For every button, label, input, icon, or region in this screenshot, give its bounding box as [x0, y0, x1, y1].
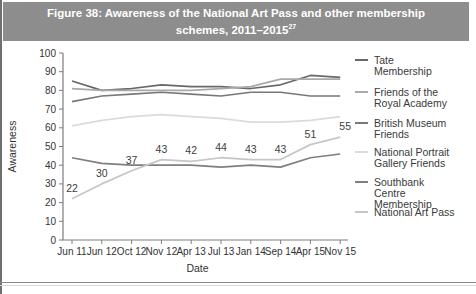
y-tick-label: 40	[45, 160, 57, 171]
data-label: 43	[245, 143, 257, 155]
y-axis-title: Awareness	[6, 121, 18, 173]
footnote-reference: 27	[288, 23, 296, 30]
x-tick-label: Nov 12	[146, 246, 178, 257]
series-line-tate-membership	[72, 75, 340, 90]
figure-title-line1: Figure 38: Awareness of the National Art…	[3, 6, 469, 21]
y-tick-label: 60	[45, 122, 57, 133]
x-tick-label: Sep 14	[265, 246, 297, 257]
figure-title-line2: schemes, 2011–201527	[3, 20, 469, 37]
data-label: 37	[126, 154, 138, 166]
figure-bottom-rule	[0, 282, 476, 286]
x-tick-label: Nov 15	[324, 246, 356, 257]
y-tick-label: 0	[50, 235, 56, 246]
data-label: 22	[66, 182, 78, 194]
figure-38-chart-panel: Figure 38: Awareness of the National Art…	[0, 0, 476, 294]
x-tick-label: Apr 15	[296, 246, 326, 257]
series-line-british-museum-friends	[72, 92, 340, 101]
series-line-national-portrait-gallery-friends	[72, 115, 340, 126]
data-label: 30	[96, 167, 108, 179]
data-label: 42	[185, 144, 197, 156]
series-line-friends-of-the-royal-academy	[72, 79, 340, 90]
y-tick-label: 70	[45, 104, 57, 115]
y-tick-label: 80	[45, 85, 57, 96]
series-line-national-art-pass	[72, 137, 340, 199]
figure-title-line2-text: schemes, 2011–2015	[176, 24, 289, 36]
data-label: 43	[156, 143, 168, 155]
y-tick-label: 90	[45, 66, 57, 77]
series-line-southbank-centre-membership	[72, 154, 340, 167]
data-label: 51	[305, 128, 317, 140]
x-tick-label: Jan 14	[236, 246, 266, 257]
y-tick-label: 50	[45, 141, 57, 152]
x-tick-label: Jul 13	[208, 246, 235, 257]
data-label: 43	[275, 143, 287, 155]
y-tick-label: 30	[45, 178, 57, 189]
y-tick-label: 10	[45, 216, 57, 227]
y-tick-label: 100	[39, 48, 56, 59]
x-tick-label: Apr 13	[176, 246, 206, 257]
data-label: 55	[339, 120, 351, 132]
y-tick-label: 20	[45, 197, 57, 208]
x-tick-label: Oct 12	[117, 246, 147, 257]
data-label: 44	[215, 141, 227, 153]
x-axis-title: Date	[186, 262, 208, 274]
figure-title-bar: Figure 38: Awareness of the National Art…	[3, 2, 469, 41]
x-tick-label: Jun 11	[57, 246, 87, 257]
x-tick-label: Jun 12	[87, 246, 117, 257]
awareness-line-chart: 0102030405060708090100Jun 11Jun 12Oct 12…	[0, 44, 476, 282]
